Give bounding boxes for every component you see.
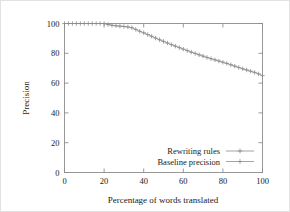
series-marker-point [98,21,102,25]
y-tick-label: 100 [47,19,60,29]
x-tick-label: 60 [179,176,188,186]
series-marker-point [130,25,134,29]
series-marker-point [229,63,233,67]
series-marker-point [157,38,161,42]
series-marker-point [181,47,185,51]
x-axis-tick-labels: 020406080100 [62,176,269,186]
series-marker-point [217,59,221,63]
y-tick-label: 0 [55,168,59,178]
plot-frame [65,24,263,173]
y-axis-tick-labels: 020406080100 [47,19,60,178]
y-tick-label: 60 [51,78,60,88]
series-marker-point [173,44,177,48]
series-marker-point [142,31,146,35]
precision-line-chart: 020406080100 020406080100 Rewriting rule… [0,0,290,212]
y-axis-title: Precision [21,81,31,115]
series-marker-point [102,21,106,25]
series-marker-point [153,36,157,40]
series-marker-point [197,53,201,57]
y-tick-label: 40 [51,108,60,118]
y-tick-label: 80 [51,48,60,58]
series-marker-point [114,24,118,28]
chart-legend: Rewriting rulesBaseline precision [157,146,254,167]
series-marker-point [165,41,169,45]
series-marker-point [244,68,248,72]
series-marker-point [62,21,66,25]
series-marker-point [70,21,74,25]
series-marker-point [161,39,165,43]
series-marker-point [241,67,245,71]
series-marker-point [256,72,260,76]
series-marker-point [193,51,197,55]
series-marker-point [213,58,217,62]
x-tick-label: 100 [256,176,269,186]
axis-ticks [65,24,263,173]
series-marker-point [134,27,138,31]
x-tick-label: 0 [62,176,66,186]
series-marker-point [78,21,82,25]
series-marker-point [86,21,90,25]
series-marker-point [201,54,205,58]
series-marker-point [260,73,264,77]
series-marker-point [169,42,173,46]
series-marker-point [237,65,241,69]
legend-label-1: Baseline precision [157,157,220,167]
x-tick-label: 40 [139,176,148,186]
series-marker-point [189,50,193,54]
x-tick-label: 20 [100,176,109,186]
series-marker-point [252,70,256,74]
x-tick-label: 80 [219,176,228,186]
plot-frame-rect [65,24,263,173]
series-marker-point [74,21,78,25]
series-marker-point [177,45,181,49]
series-marker-point [233,64,237,68]
data-series-group [62,21,264,78]
series-marker-point [248,69,252,73]
series-marker-point [149,34,153,38]
series-marker-point [126,25,130,29]
series-marker-point [118,24,122,28]
series-marker-point [138,29,142,33]
series-marker-point [145,32,149,36]
series-line-0 [65,24,263,76]
series-marker-point [90,21,94,25]
chart-figure: 020406080100 020406080100 Rewriting rule… [0,0,290,212]
series-marker-point [66,21,70,25]
series-marker-point [221,60,225,64]
series-marker-point [225,61,229,65]
series-marker-point [82,21,86,25]
series-marker-point [94,21,98,25]
series-marker-point [205,55,209,59]
series-marker-point [122,24,126,28]
series-marker-point [209,56,213,60]
legend-label-0: Rewriting rules [167,146,220,156]
x-axis-title: Percentage of words translated [108,195,219,205]
series-marker-point [185,48,189,52]
y-tick-label: 20 [51,138,60,148]
series-marker-point [106,22,110,26]
